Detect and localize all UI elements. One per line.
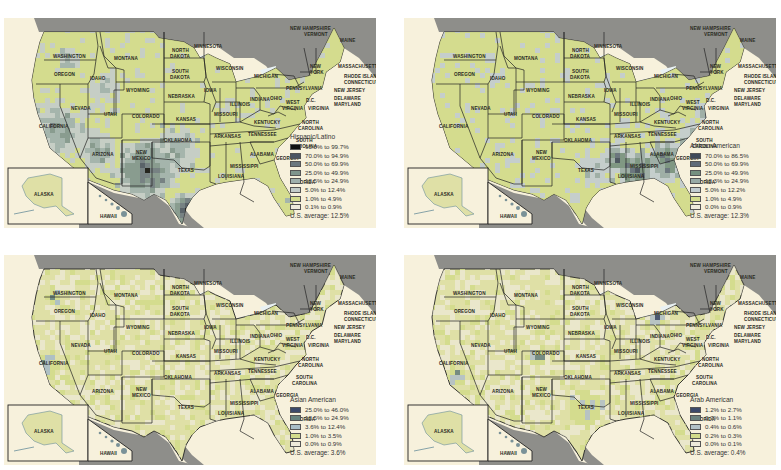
- state-label-michigan: MICHIGAN: [254, 311, 279, 316]
- legend-us-average: U.S. average: 0.4%: [690, 450, 745, 456]
- legend-label: 0.0% to 0.9%: [705, 204, 742, 210]
- state-label-missouri: MISSOURI: [214, 349, 238, 354]
- state-label-new-york: NEW: [710, 64, 722, 69]
- state-label-wisconsin: WISCONSIN: [216, 303, 244, 308]
- legend-label: 0.7% to 1.1%: [705, 415, 742, 421]
- legend-item: 70.0% to 94.9%: [290, 151, 349, 160]
- state-label-maine: MAINE: [340, 38, 355, 43]
- state-label-iowa: IOWA: [204, 88, 217, 93]
- state-label-west-virginia-2: VIRGINIA: [282, 343, 304, 348]
- state-label-colorado: COLORADO: [132, 351, 160, 356]
- state-label-colorado: COLORADO: [532, 114, 560, 119]
- state-label-new-jersey: NEW JERSEY: [734, 325, 765, 330]
- state-label-tennessee: TENNESSEE: [248, 369, 277, 374]
- state-label-hawaii: HAWAII: [100, 451, 117, 456]
- legend-label: 25.0% to 49.9%: [705, 170, 749, 176]
- state-label-west-virginia-2: VIRGINIA: [682, 106, 704, 111]
- state-label-maryland: MARYLAND: [334, 102, 361, 107]
- state-label-south-dakota-2: DAKOTA: [170, 312, 190, 317]
- state-label-kentucky: KENTUCKY: [254, 357, 280, 362]
- legend-swatch: [690, 415, 701, 421]
- state-label-utah: UTAH: [504, 349, 517, 354]
- legend-label: 0.4% to 0.6%: [705, 424, 742, 430]
- state-label-new-hampshire: NEW HAMPSHIRE: [290, 26, 331, 31]
- state-label-nevada: NEVADA: [471, 343, 491, 348]
- state-label-hawaii: HAWAII: [500, 214, 517, 219]
- state-label-north-carolina: NORTH: [302, 120, 319, 125]
- state-label-ohio: OHIO: [270, 96, 282, 101]
- state-label-virginia: VIRGINIA: [708, 106, 730, 111]
- state-label-west-virginia: WEST: [686, 337, 700, 342]
- state-label-idaho: IDAHO: [90, 76, 106, 81]
- state-label-west-virginia: WEST: [686, 100, 700, 105]
- map-legend-hispanic: Hispanic/Latino 95.0% to 99.7%70.0% to 9…: [290, 134, 349, 219]
- state-label-south-carolina: SOUTH: [696, 375, 713, 380]
- state-label-north-carolina: NORTH: [702, 357, 719, 362]
- legend-item: 0.2% to 0.3%: [690, 431, 745, 440]
- state-label-massachusetts: MASSACHUSETTS: [338, 64, 376, 69]
- legend-title: Arab American: [690, 397, 745, 404]
- state-label-vermont: VERMONT: [704, 32, 728, 37]
- state-label-oklahoma: OKLAHOMA: [564, 375, 592, 380]
- legend-item: 70.0% to 86.5%: [690, 151, 749, 160]
- state-label-california: CALIFORNIA: [39, 124, 69, 129]
- state-label-illinois: ILLINOIS: [630, 339, 650, 344]
- state-label-vermont: VERMONT: [704, 269, 728, 274]
- legend-swatch: [290, 441, 301, 447]
- legend-swatch: [690, 178, 701, 184]
- state-label-mississippi: MISSISSIPPI: [230, 401, 258, 406]
- state-label-north-dakota-2: DAKOTA: [570, 54, 590, 59]
- state-label-mississippi: MISSISSIPPI: [230, 164, 258, 169]
- state-label-alabama: ALABAMA: [650, 389, 675, 394]
- state-label-west-virginia: WEST: [286, 100, 300, 105]
- legend-swatch: [290, 153, 301, 159]
- legend-label: 5.0% to 12.2%: [705, 187, 745, 193]
- state-label-new-mexico-2: MEXICO: [532, 156, 551, 161]
- state-label-new-hampshire: NEW HAMPSHIRE: [690, 26, 731, 31]
- legend-title: African American: [690, 143, 749, 150]
- state-label-alaska: ALASKA: [434, 192, 454, 197]
- state-label-oklahoma: OKLAHOMA: [164, 375, 192, 380]
- state-label-texas: TEXAS: [578, 405, 594, 410]
- state-label-new-mexico: NEW: [536, 387, 548, 392]
- state-label-connecticut: CONNECTICUT: [344, 80, 376, 85]
- legend-swatch: [290, 204, 301, 210]
- state-label-wyoming: WYOMING: [526, 325, 550, 330]
- state-label-maryland: MARYLAND: [734, 102, 761, 107]
- legend-swatch: [290, 424, 301, 430]
- state-label-south-dakota-2: DAKOTA: [570, 312, 590, 317]
- state-label-new-jersey: NEW JERSEY: [334, 88, 365, 93]
- legend-label: 3.6% to 12.4%: [305, 424, 345, 430]
- state-label-kentucky: KENTUCKY: [254, 120, 280, 125]
- state-label-arkansas: ARKANSAS: [214, 134, 241, 139]
- state-label-north-dakota-2: DAKOTA: [170, 291, 190, 296]
- legend-label: 1.0% to 3.5%: [305, 433, 342, 439]
- legend-swatch: [690, 407, 701, 413]
- state-label-indiana: INDIANA: [650, 97, 670, 102]
- state-label-new-york-2: YORK: [310, 307, 324, 312]
- legend-item: 25.0% to 49.9%: [290, 169, 349, 178]
- legend-swatch: [290, 196, 301, 202]
- state-label-virginia: VIRGINIA: [708, 343, 730, 348]
- legend-swatch: [290, 170, 301, 176]
- state-label-washington: WASHINGTON: [53, 291, 86, 296]
- state-label-louisiana: LOUISIANA: [618, 174, 645, 179]
- state-label-oklahoma: OKLAHOMA: [164, 138, 192, 143]
- state-label-south-dakota: SOUTH: [572, 69, 589, 74]
- state-label-minnesota: MINNESOTA: [194, 281, 223, 286]
- legend-item: 1.2% to 2.7%: [690, 406, 745, 415]
- state-label-north-carolina-2: CAROLINA: [298, 363, 324, 368]
- legend-us-average: U.S. average: 12.3%: [690, 213, 749, 219]
- legend-label: 1.0% to 4.9%: [705, 196, 742, 202]
- state-label-dc: D.C.: [306, 335, 316, 340]
- legend-swatch: [690, 153, 701, 159]
- legend-label: 70.0% to 94.9%: [305, 153, 349, 159]
- state-label-indiana: INDIANA: [650, 334, 670, 339]
- legend-label: 1.0% to 4.9%: [305, 196, 342, 202]
- state-label-north-dakota: NORTH: [572, 285, 589, 290]
- state-label-indiana: INDIANA: [250, 97, 270, 102]
- state-label-wisconsin: WISCONSIN: [616, 303, 644, 308]
- state-label-new-mexico-2: MEXICO: [132, 156, 151, 161]
- state-label-louisiana: LOUISIANA: [618, 411, 645, 416]
- state-label-south-dakota: SOUTH: [172, 306, 189, 311]
